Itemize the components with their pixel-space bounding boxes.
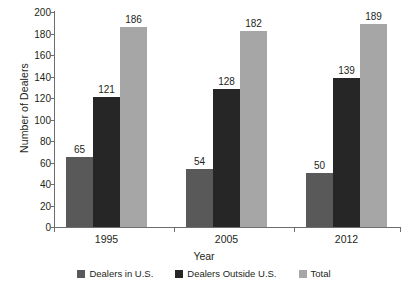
x-axis-line [54,227,400,228]
bar-value-label: 186 [125,14,142,25]
plot-area: 020406080100120140160180200 651211865412… [54,12,400,227]
bar-value-label: 65 [74,144,85,155]
legend-swatch-icon [77,270,85,278]
legend-item[interactable]: Dealers in U.S. [77,268,153,279]
chart-legend: Dealers in U.S.Dealers Outside U.S.Total [0,268,408,279]
bar-value-label: 50 [314,160,325,171]
y-axis-tick-mark [50,163,54,164]
bar [120,27,147,227]
y-axis-title: Number of Dealers [18,38,30,178]
y-axis-tick-label: 140 [34,71,51,82]
y-axis-tick-mark [50,34,54,35]
category-label-2012: 2012 [335,233,358,245]
bar-value-label: 121 [98,84,115,95]
y-axis-tick-mark [50,141,54,142]
x-axis-tick-mark [54,227,55,232]
category-label-1995: 1995 [95,233,118,245]
bar [213,89,240,227]
y-axis-tick-mark [50,77,54,78]
y-axis-tick-mark [50,12,54,13]
x-axis-tick-mark [294,227,295,232]
x-axis-tick-mark [174,227,175,232]
category-label-2005: 2005 [215,233,238,245]
bar [306,173,333,227]
y-axis-tick-label: 200 [34,7,51,18]
legend-item[interactable]: Dealers Outside U.S. [175,268,276,279]
legend-label: Dealers Outside U.S. [187,268,276,279]
legend-label: Total [311,268,331,279]
bar-value-label: 128 [218,76,235,87]
legend-label: Dealers in U.S. [89,268,153,279]
bar-chart: Number of Dealers 0204060801001201401601… [0,0,408,288]
bar [333,78,360,227]
bar [66,157,93,227]
x-axis-title: Year [0,250,408,262]
y-axis-tick-mark [50,55,54,56]
y-axis-tick-mark [50,120,54,121]
y-axis-tick-label: 100 [34,114,51,125]
y-axis-tick-label: 180 [34,28,51,39]
y-axis-tick-mark [50,206,54,207]
bar-value-label: 189 [365,11,382,22]
y-axis-tick-label: 160 [34,50,51,61]
legend-item[interactable]: Total [299,268,331,279]
y-axis-tick-mark [50,98,54,99]
x-axis-tick-mark [400,227,401,232]
bar [93,97,120,227]
bar-value-label: 182 [245,18,262,29]
y-axis-tick-label: 120 [34,93,51,104]
bar-value-label: 54 [194,156,205,167]
bar [240,31,267,227]
bar [186,169,213,227]
y-axis-tick-mark [50,184,54,185]
bar [360,24,387,227]
legend-swatch-icon [299,270,307,278]
bar-value-label: 139 [338,65,355,76]
legend-swatch-icon [175,270,183,278]
